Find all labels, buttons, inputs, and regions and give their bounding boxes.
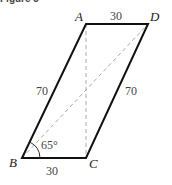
- vertex-label-c: C: [89, 156, 98, 172]
- side-label-ad: 30: [110, 9, 122, 24]
- side-label-cd: 70: [125, 84, 137, 99]
- side-label-bc: 30: [46, 164, 58, 179]
- vertex-label-d: D: [150, 9, 159, 25]
- vertex-label-b: B: [9, 155, 17, 171]
- angle-arc: [30, 142, 40, 158]
- side-label-ab: 70: [36, 84, 48, 99]
- angle-label: 65°: [41, 138, 58, 153]
- vertex-label-a: A: [75, 9, 83, 25]
- parallelogram-diagram: [0, 0, 172, 185]
